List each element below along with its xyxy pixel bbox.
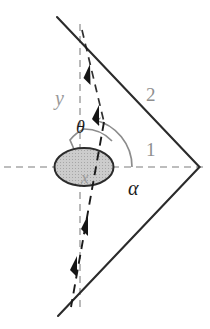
wedge-upper-face [57, 17, 200, 167]
ray-arrowhead [92, 105, 99, 126]
axis-label-y: y [55, 88, 64, 108]
diagram-canvas [0, 0, 210, 329]
theta-arc [84, 129, 112, 141]
angle-label-theta: θ [76, 118, 85, 136]
ray-arrowhead [84, 64, 91, 85]
ray-arrowhead [70, 256, 77, 277]
face-label-1: 1 [146, 140, 156, 159]
axis-label-x: x [81, 169, 89, 186]
face-label-2: 2 [146, 85, 156, 104]
angle-label-alpha: α [128, 178, 139, 198]
figure-container: y x θ α 1 2 [0, 0, 210, 329]
